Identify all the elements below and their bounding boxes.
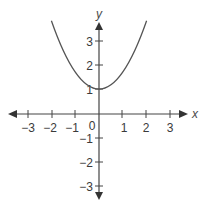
y-tick-label: −1	[79, 132, 93, 146]
y-axis-up-arrow-icon	[95, 22, 103, 30]
y-axis-label: y	[95, 7, 103, 21]
y-tick-label: 2	[86, 59, 93, 73]
x-tick-label: 2	[143, 121, 150, 135]
x-tick-label: −1	[65, 121, 79, 135]
x-tick-label: −3	[21, 121, 35, 135]
x-axis-right-arrow-icon	[179, 110, 188, 118]
parabola-chart: −3 −2 −1 1 2 3 x 3 2 1 −1 −2 −3 y 0	[0, 0, 206, 210]
x-axis: −3 −2 −1 1 2 3 x	[8, 107, 199, 135]
y-tick-label: −3	[79, 180, 93, 194]
y-tick-label: 3	[86, 35, 93, 49]
x-tick-label: 3	[167, 121, 174, 135]
y-tick-label: −2	[79, 156, 93, 170]
y-axis: 3 2 1 −1 −2 −3 y	[79, 7, 103, 200]
x-tick-label: −2	[43, 121, 57, 135]
x-tick-label: 1	[121, 121, 128, 135]
y-axis-down-arrow-icon	[95, 192, 103, 200]
x-axis-label: x	[191, 107, 199, 121]
origin-label: 0	[89, 119, 96, 133]
x-axis-left-arrow-icon	[8, 110, 17, 118]
